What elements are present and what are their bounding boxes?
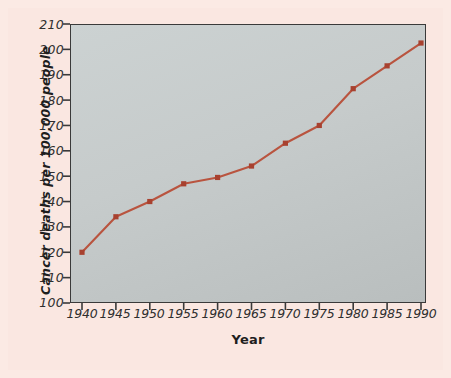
figure-root: 210 200 190 180 170 160 150 140 130 120 … xyxy=(0,0,451,378)
x-axis-title: Year xyxy=(70,332,426,347)
x-axis-tick-labels: 1940 1945 1950 1955 1960 1965 1970 1975 … xyxy=(0,308,451,328)
plot-area-panel xyxy=(70,24,426,303)
y-axis-title: Cancer deaths per 100,000 people xyxy=(38,21,53,321)
x-tick-label: 1990 xyxy=(398,308,444,321)
